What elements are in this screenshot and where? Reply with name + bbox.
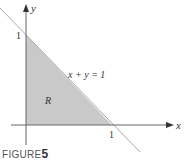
line-x-plus-y-equals-1: [0, 8, 140, 152]
y-axis-label: y: [30, 2, 36, 14]
caption-number: 5: [42, 147, 49, 161]
figure-caption: FIGURE5: [2, 147, 49, 161]
x-tick-label: 1: [109, 129, 114, 140]
x-axis-arrow-icon: [166, 122, 174, 128]
y-tick-label: 1: [16, 30, 21, 41]
line-equation-label: x + y = 1: [67, 69, 105, 80]
region-diagram: y x 1 1 x + y = 1 R: [0, 0, 184, 168]
region-label: R: [44, 95, 51, 106]
x-axis-label: x: [175, 119, 181, 131]
caption-label: FIGURE: [2, 149, 42, 160]
y-axis-arrow-icon: [23, 4, 29, 12]
